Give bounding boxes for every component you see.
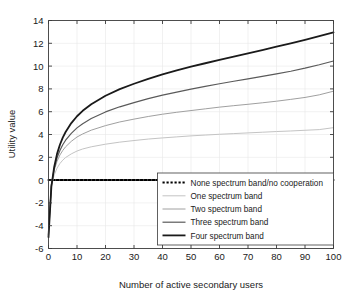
y-tick-label: -2 <box>35 197 43 208</box>
chart-legend: None spectrum band/no cooperationOne spe… <box>158 173 334 245</box>
x-tick-label: 100 <box>326 251 342 262</box>
y-tick-label: 10 <box>33 61 44 72</box>
x-tick-label: 70 <box>243 251 254 262</box>
y-tick-label: 14 <box>33 15 44 26</box>
x-tick-label: 10 <box>72 251 83 262</box>
y-tick-label: 12 <box>33 38 44 49</box>
legend-label-1: One spectrum band <box>191 192 263 201</box>
y-tick-label: 4 <box>38 129 43 140</box>
x-tick-label: 30 <box>129 251 140 262</box>
utility-value-line-chart: 0102030405060708090100 -6-4-202468101214… <box>0 0 358 300</box>
y-tick-label: 0 <box>38 175 43 186</box>
x-tick-label: 20 <box>100 251 111 262</box>
legend-label-2: Two spectrum band <box>191 205 263 214</box>
x-tick-label: 40 <box>157 251 168 262</box>
x-tick-label: 80 <box>271 251 282 262</box>
chart-figure: 0102030405060708090100 -6-4-202468101214… <box>0 0 358 300</box>
y-tick-label: 8 <box>38 83 43 94</box>
y-axis-title: Utility value <box>6 110 17 159</box>
legend-label-0: None spectrum band/no cooperation <box>191 179 324 188</box>
x-tick-label: 50 <box>186 251 197 262</box>
y-tick-label: -6 <box>35 243 43 254</box>
legend-label-4: Four spectrum band <box>191 232 265 241</box>
x-axis-title: Number of active secondary users <box>119 279 263 290</box>
x-tick-label: 60 <box>214 251 225 262</box>
legend-label-3: Three spectrum band <box>191 218 269 227</box>
y-tick-label: 6 <box>38 106 43 117</box>
x-tick-label: 90 <box>300 251 311 262</box>
y-tick-label: 2 <box>38 152 43 163</box>
y-tick-label: -4 <box>35 220 43 231</box>
x-tick-label: 0 <box>46 251 51 262</box>
